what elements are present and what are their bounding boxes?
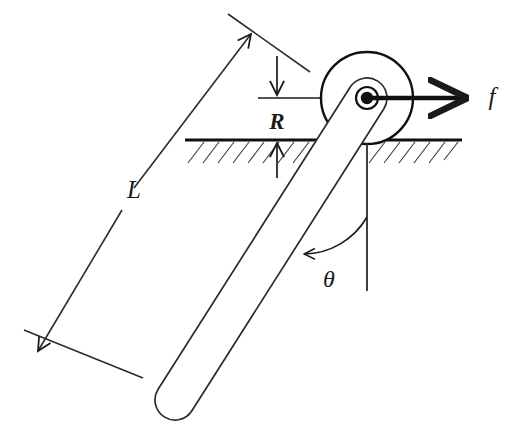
- length-dim-lower: [38, 210, 122, 351]
- label-angle: θ: [323, 266, 335, 292]
- length-ext-bottom: [24, 330, 143, 378]
- label-radius: R: [268, 109, 284, 134]
- length-ext-top: [228, 14, 310, 72]
- mechanics-diagram: L R f θ: [0, 0, 529, 437]
- label-length: L: [126, 176, 141, 203]
- label-force: f: [489, 83, 499, 110]
- angle-arc: [304, 217, 367, 254]
- length-dimension-group: [24, 14, 310, 378]
- diagram-canvas: L R f θ: [0, 0, 529, 437]
- length-dim-upper: [134, 34, 251, 188]
